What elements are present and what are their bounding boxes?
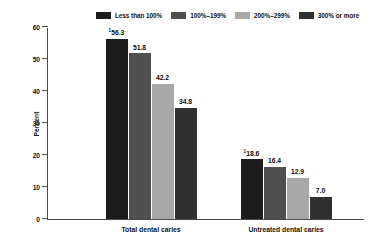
bar-value-text: 51.8 [133, 44, 146, 51]
bar-value-text: 16.4 [268, 157, 281, 164]
bar[interactable] [106, 39, 128, 219]
bar-value-label: 51.8 [120, 44, 160, 52]
bar-value-text: 18.6 [246, 150, 259, 157]
legend-item[interactable]: Less than 100% [96, 12, 162, 19]
legend-label: Less than 100% [115, 12, 162, 19]
bar[interactable] [175, 108, 197, 219]
y-axis-tick [42, 122, 48, 123]
legend-item[interactable]: 300% or more [299, 12, 359, 19]
bar[interactable] [287, 178, 309, 219]
bar-value-label: 7.0 [301, 187, 341, 195]
legend-label: 300% or more [318, 12, 359, 19]
bar-value-text: 12.9 [291, 168, 304, 175]
bar-value-text: 56.3 [111, 29, 124, 36]
bar[interactable] [310, 197, 332, 219]
legend-label: 200%–299% [254, 12, 290, 19]
y-axis-tick [42, 26, 48, 27]
bar-value-label: 34.8 [166, 98, 206, 106]
x-axis-category-label: Untreated dental caries [226, 225, 346, 234]
y-axis-tick-label: 60 [22, 24, 40, 31]
y-axis-tick-label: 0 [22, 216, 40, 223]
legend-item[interactable]: 100%–199% [171, 12, 226, 19]
y-axis-tick-label: 50 [22, 56, 40, 63]
bar[interactable] [241, 159, 263, 219]
legend-swatch-icon [171, 12, 186, 19]
legend-swatch-icon [96, 12, 111, 19]
legend-label: 100%–199% [190, 12, 226, 19]
y-axis-tick [42, 186, 48, 187]
bar-value-label: 16.4 [255, 157, 295, 165]
plot-area: Percent 0102030405060 156.351.842.234.81… [47, 28, 364, 220]
x-axis-category-label: Total dental caries [91, 225, 211, 234]
y-axis-tick-label: 40 [22, 88, 40, 95]
bar-value-label: 156.3 [97, 29, 137, 37]
legend-swatch-icon [299, 12, 314, 19]
bar-value-label: 12.9 [278, 168, 318, 176]
bar-value-text: 42.2 [156, 74, 169, 81]
y-axis-tick [42, 218, 48, 219]
bar-chart-figure: Less than 100%100%–199%200%–299%300% or … [0, 0, 378, 249]
legend-item[interactable]: 200%–299% [235, 12, 290, 19]
chart-legend: Less than 100%100%–199%200%–299%300% or … [96, 9, 374, 22]
y-axis-tick-label: 30 [22, 120, 40, 127]
bar-value-text: 7.0 [316, 187, 325, 194]
legend-swatch-icon [235, 12, 250, 19]
y-axis-tick-label: 20 [22, 152, 40, 159]
bar-value-text: 34.8 [179, 98, 192, 105]
bar-value-label: 42.2 [143, 74, 183, 82]
y-axis-tick-label: 10 [22, 184, 40, 191]
y-axis-tick [42, 58, 48, 59]
y-axis-tick [42, 154, 48, 155]
y-axis-tick [42, 90, 48, 91]
